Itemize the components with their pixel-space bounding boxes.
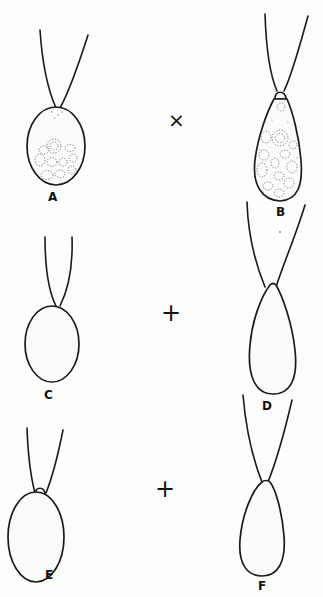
cell-d-flagellum-left [247,202,265,287]
label-d: D [262,399,272,413]
cell-c: C [25,237,79,402]
cell-e: E [8,428,64,582]
cell-d-speck [279,231,281,233]
label-b: B [276,205,285,219]
cell-c-body [25,306,79,382]
cell-f-body [240,481,285,577]
cell-a: A [27,30,88,204]
cell-b-papilla [275,92,286,99]
cell-b-flagellum-left [265,14,277,91]
cell-a-flagellum-right [60,35,88,108]
plus-symbol-1: + [161,299,181,327]
label-a: A [48,190,58,204]
cell-a-flagellum-left [40,30,56,108]
cell-a-body [27,107,85,185]
cell-b-body [254,99,301,201]
cell-e-flagellum-left [27,428,35,493]
label-f: F [258,579,266,593]
plus-symbol-2: + [155,475,175,503]
cell-d: D [247,202,305,413]
cell-b: B [254,14,308,219]
cell-b-flagellum-right [284,16,308,91]
biflagellate-cells-diagram: A × B C [0,0,323,597]
cell-f-flagellum-left [243,395,262,482]
cell-c-flagellum-left [45,237,56,306]
cell-e-body [8,492,64,582]
label-e: E [45,568,53,582]
cell-f: F [240,395,292,593]
cross-symbol: × [168,108,185,132]
figure-canvas: A × B C [0,0,323,597]
cell-d-body [249,284,295,395]
cell-c-flagellum-right [60,237,72,306]
label-c: C [44,388,53,402]
cell-e-flagellum-right [46,430,63,493]
